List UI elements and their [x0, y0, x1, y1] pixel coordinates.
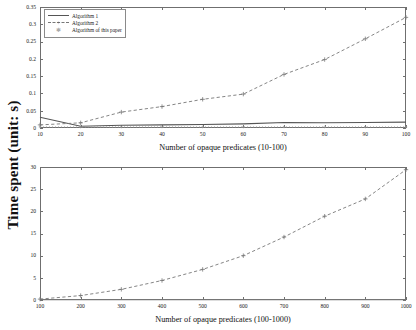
data-point-marker-plus: [404, 167, 408, 171]
data-point-marker-plus: [363, 37, 367, 41]
data-point-marker-plus: [282, 235, 286, 239]
x-axis-label-top: Number of opaque predicates (10-100): [40, 143, 406, 152]
data-point-marker-plus: [78, 293, 82, 297]
legend-label-algorithm-1: Algorithm 1: [72, 13, 98, 19]
legend-item-algorithm-1: Algorithm 1: [48, 12, 122, 19]
data-point-marker-star: [324, 126, 326, 128]
series-line-algorithm-2: [40, 170, 406, 299]
legend-label-algorithm-2: Algorithm 2: [72, 20, 98, 26]
chart-panel-top: 00.050.10.150.20.250.30.35 1020304050607…: [0, 0, 416, 165]
data-point-marker-plus: [241, 253, 245, 257]
data-point-marker-star: [161, 126, 163, 128]
data-point-marker-plus: [322, 214, 326, 218]
data-point-marker-plus: [119, 110, 123, 114]
legend-item-algorithm-2: + Algorithm 2: [48, 19, 122, 26]
data-point-marker-plus: [282, 72, 286, 76]
data-point-marker-plus: [241, 92, 245, 96]
data-point-marker-plus: [119, 287, 123, 291]
legend-swatch-solid-line-icon: [48, 12, 69, 19]
data-point-marker-plus: [78, 121, 82, 125]
x-axis-label-bottom: Number of opaque predicates (100-1000): [40, 315, 406, 324]
data-point-marker-plus: [38, 123, 42, 127]
data-point-marker-plus: [160, 278, 164, 282]
figure-container: Time spent (unit: s) 00.050.10.150.20.25…: [0, 0, 416, 330]
legend-label-algorithm-of-this-paper: Algorithm of this paper: [72, 27, 122, 33]
series-line-algorithm-1: [40, 117, 406, 126]
data-point-marker-plus: [38, 297, 42, 301]
legend-item-algorithm-of-this-paper: ✱ Algorithm of this paper: [48, 26, 122, 33]
data-point-marker-plus: [363, 197, 367, 201]
legend-top: Algorithm 1 + Algorithm 2 ✱ Algorithm of…: [44, 9, 126, 38]
data-point-marker-star: [405, 126, 407, 128]
chart-panel-bottom: 051015202530 100200300400500600700800900…: [0, 165, 416, 330]
data-point-marker-plus: [404, 15, 408, 19]
data-point-marker-star: [364, 126, 366, 128]
data-point-marker-star: [80, 126, 82, 128]
legend-swatch-star-marker-icon: ✱: [48, 26, 69, 33]
data-point-marker-plus: [322, 57, 326, 61]
data-point-marker-star: [242, 126, 244, 128]
data-point-marker-plus: [200, 267, 204, 271]
data-point-marker-plus: [200, 97, 204, 101]
legend-swatch-dashed-plus-icon: +: [48, 19, 69, 26]
series-layer-bottom: [0, 165, 416, 330]
data-point-marker-plus: [160, 104, 164, 108]
